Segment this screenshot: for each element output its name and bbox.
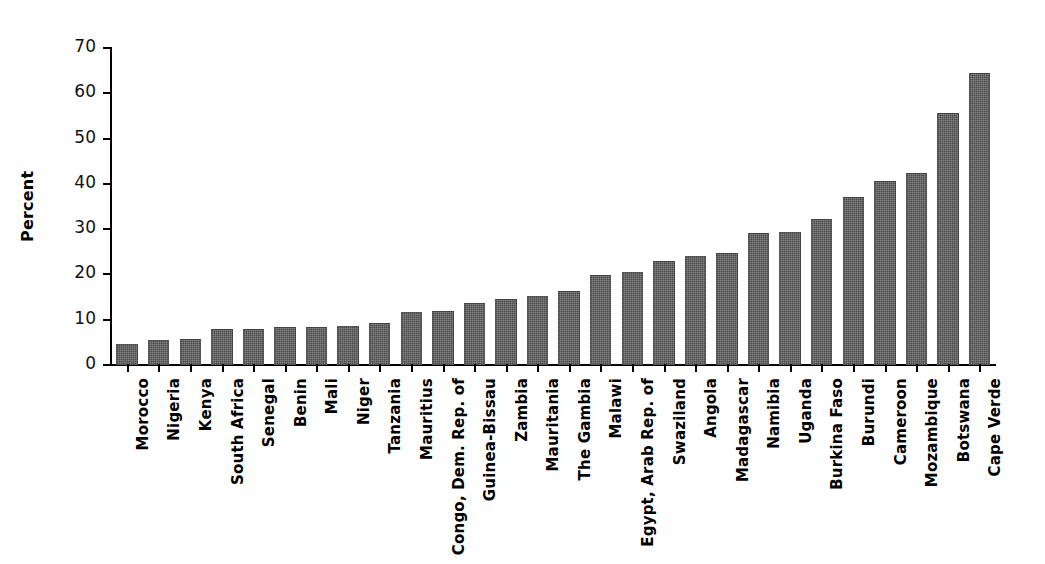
x-axis-label: Mali — [323, 378, 345, 564]
y-axis-tick-label: 70 — [44, 38, 96, 56]
bar-chart: Percent 010203040506070 MoroccoNigeriaKe… — [0, 0, 1045, 564]
y-axis-tick-label-text: 50 — [50, 129, 96, 146]
y-axis-tick-label-text: 70 — [50, 38, 96, 55]
bar — [401, 312, 422, 365]
x-axis-tick — [695, 364, 697, 372]
x-axis-label: Cameroon — [892, 378, 914, 564]
x-axis-label: Niger — [355, 378, 377, 564]
bar-slot — [901, 48, 933, 365]
x-axis-tick — [948, 364, 950, 372]
bar — [906, 173, 927, 365]
x-axis-label: Nigeria — [165, 378, 187, 564]
bar — [843, 197, 864, 365]
bar-slot — [459, 48, 491, 365]
bar-slot — [838, 48, 870, 365]
x-axis-label: Malawi — [607, 378, 629, 564]
x-axis-tick — [537, 364, 539, 372]
x-axis-tick — [758, 364, 760, 372]
bar — [811, 219, 832, 365]
x-axis-tick — [348, 364, 350, 372]
bar-slot — [933, 48, 965, 365]
x-axis-label: Swaziland — [671, 378, 693, 564]
x-axis-label: South Africa — [229, 378, 251, 564]
y-axis-tick-label: 10 — [44, 310, 96, 328]
x-axis-tick — [600, 364, 602, 372]
bar-slot — [333, 48, 365, 365]
x-axis-tick — [916, 364, 918, 372]
bar-slot — [807, 48, 839, 365]
y-axis-tick-label: 30 — [44, 219, 96, 237]
bar-slot — [743, 48, 775, 365]
x-axis-label: Senegal — [260, 378, 282, 564]
bar-slot — [712, 48, 744, 365]
bar-slot — [522, 48, 554, 365]
y-axis-tick — [103, 228, 112, 230]
bar — [464, 303, 485, 365]
bar-slot — [775, 48, 807, 365]
y-axis-tick — [103, 364, 112, 366]
y-axis-tick — [103, 138, 112, 140]
bar — [685, 256, 706, 365]
bar — [495, 299, 516, 365]
x-axis-label: Namibia — [765, 378, 787, 564]
bar-slot — [301, 48, 333, 365]
bar-slot — [270, 48, 302, 365]
x-axis-label: Guinea-Bissau — [481, 378, 503, 564]
x-axis-label: Uganda — [797, 378, 819, 564]
bar — [874, 181, 895, 365]
x-axis-label: Tanzania — [386, 378, 408, 564]
x-axis-label: Burkina Faso — [828, 378, 850, 564]
bar — [243, 329, 264, 365]
y-axis-tick-label-text: 0 — [50, 355, 96, 372]
x-axis-tick — [379, 364, 381, 372]
x-axis-label: Congo, Dem. Rep. of — [450, 378, 472, 564]
x-axis-tick — [979, 364, 981, 372]
x-axis-label: Morocco — [134, 378, 156, 564]
x-axis-tick — [569, 364, 571, 372]
y-axis-tick-label: 40 — [44, 174, 96, 192]
bar — [369, 323, 390, 365]
x-axis-label: Cape Verde — [986, 378, 1008, 564]
bar — [622, 272, 643, 365]
y-axis-tick — [103, 47, 112, 49]
x-axis-label: Madagascar — [734, 378, 756, 564]
y-axis-tick-label: 50 — [44, 129, 96, 147]
bar — [337, 326, 358, 365]
x-axis-tick — [411, 364, 413, 372]
bar — [937, 113, 958, 365]
x-axis-tick — [316, 364, 318, 372]
x-axis-label: Egypt, Arab Rep. of — [639, 378, 661, 564]
y-axis-tick-label: 60 — [44, 83, 96, 101]
x-axis-tick — [727, 364, 729, 372]
plot-area — [112, 48, 996, 365]
bar-slot — [491, 48, 523, 365]
x-axis-tick — [443, 364, 445, 372]
x-axis-tick — [885, 364, 887, 372]
x-axis-label: Botswana — [955, 378, 977, 564]
bar-slot — [964, 48, 996, 365]
bar-slot — [617, 48, 649, 365]
bar-slot — [554, 48, 586, 365]
bar — [306, 327, 327, 365]
x-axis-tick — [285, 364, 287, 372]
bar-slot — [144, 48, 176, 365]
bar-slot — [428, 48, 460, 365]
bar — [779, 232, 800, 365]
bar — [116, 344, 137, 365]
x-axis-label: Angola — [702, 378, 724, 564]
y-axis-tick — [103, 319, 112, 321]
bar — [716, 253, 737, 365]
bar — [148, 340, 169, 365]
bar-slot — [112, 48, 144, 365]
bar-slot — [365, 48, 397, 365]
bar-slot — [238, 48, 270, 365]
bar-slot — [649, 48, 681, 365]
bar-slot — [207, 48, 239, 365]
bar-slot — [870, 48, 902, 365]
y-axis-tick-label-text: 30 — [50, 219, 96, 236]
y-axis-tick-label: 0 — [44, 355, 96, 373]
x-axis-tick — [821, 364, 823, 372]
x-axis-tick — [790, 364, 792, 372]
x-axis-tick — [158, 364, 160, 372]
x-axis-label: The Gambia — [576, 378, 598, 564]
